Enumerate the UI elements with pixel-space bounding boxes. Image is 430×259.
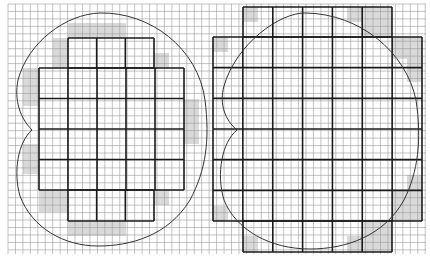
shaded-cell xyxy=(23,68,39,106)
shaded-cell xyxy=(23,144,39,174)
shaded-cell xyxy=(347,7,363,22)
shaded-cell xyxy=(243,7,258,22)
shaded-cell xyxy=(213,206,228,221)
shaded-cell xyxy=(363,221,392,252)
shaded-cell xyxy=(154,53,169,68)
shaded-cell xyxy=(39,190,68,212)
shaded-cell xyxy=(184,99,199,144)
shaded-cell xyxy=(213,37,228,52)
shaded-cell xyxy=(68,23,126,38)
grid-diagram xyxy=(0,0,430,259)
shaded-cell xyxy=(68,221,126,236)
